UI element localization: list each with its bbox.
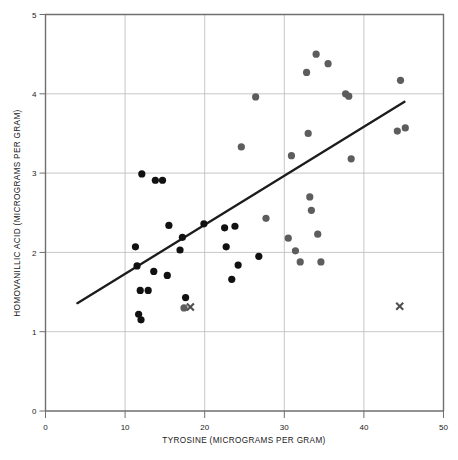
data-point	[303, 69, 310, 76]
x-tick-label: 40	[359, 423, 368, 432]
data-point	[164, 272, 171, 279]
y-axis-title: HOMOVANILLIC ACID (MICROGRAMS PER GRAM)	[13, 109, 22, 316]
data-points	[132, 51, 409, 324]
data-point	[165, 222, 172, 229]
data-point	[308, 207, 315, 214]
data-point	[313, 51, 320, 58]
data-point	[231, 223, 238, 230]
x-marker	[187, 304, 194, 311]
data-point	[235, 261, 242, 268]
y-tick-label: 2	[32, 249, 37, 258]
data-point	[179, 234, 186, 241]
tick-marks	[40, 15, 444, 419]
data-point	[150, 268, 157, 275]
y-tick-label: 1	[32, 328, 37, 337]
data-point	[297, 258, 304, 265]
plot-frame	[46, 15, 444, 412]
data-point	[221, 224, 228, 231]
y-tick-label: 4	[32, 90, 37, 99]
x-tick-label: 20	[200, 423, 209, 432]
data-point	[145, 287, 152, 294]
data-point	[314, 231, 321, 238]
data-point	[348, 155, 355, 162]
data-point	[159, 177, 166, 184]
data-point	[152, 177, 159, 184]
data-point	[252, 93, 259, 100]
regression-line	[77, 102, 404, 303]
data-point	[138, 170, 145, 177]
scatter-plot-figure: 01020304050012345 TYROSINE (MICROGRAMS P…	[0, 0, 458, 460]
x-tick-label: 50	[439, 423, 448, 432]
data-point	[137, 287, 144, 294]
data-point	[255, 253, 262, 260]
data-point	[345, 93, 352, 100]
data-point	[397, 77, 404, 84]
x-markers	[187, 303, 403, 311]
data-point	[180, 304, 187, 311]
data-point	[288, 152, 295, 159]
data-point	[176, 246, 183, 253]
data-point	[306, 193, 313, 200]
plot-canvas: 01020304050012345 TYROSINE (MICROGRAMS P…	[0, 0, 458, 460]
data-point	[132, 243, 139, 250]
tick-labels: 01020304050012345	[32, 11, 448, 432]
data-point	[238, 143, 245, 150]
y-tick-label: 5	[32, 11, 37, 20]
caption-sliver	[0, 450, 458, 460]
x-axis-title: TYROSINE (MICROGRAMS PER GRAM)	[162, 436, 325, 445]
data-point	[317, 258, 324, 265]
data-point	[394, 127, 401, 134]
data-point	[223, 243, 230, 250]
data-point	[305, 130, 312, 137]
x-tick-label: 0	[43, 423, 48, 432]
data-point	[324, 60, 331, 67]
y-tick-label: 3	[32, 169, 37, 178]
data-point	[137, 316, 144, 323]
data-point	[200, 220, 207, 227]
grid-lines	[46, 15, 444, 412]
x-tick-label: 30	[280, 423, 289, 432]
data-point	[262, 215, 269, 222]
data-point	[182, 294, 189, 301]
y-tick-label: 0	[32, 407, 37, 416]
data-point	[402, 124, 409, 131]
x-marker	[396, 303, 403, 310]
data-point	[133, 262, 140, 269]
data-point	[228, 276, 235, 283]
data-point	[292, 247, 299, 254]
x-tick-label: 10	[121, 423, 130, 432]
data-point	[285, 235, 292, 242]
